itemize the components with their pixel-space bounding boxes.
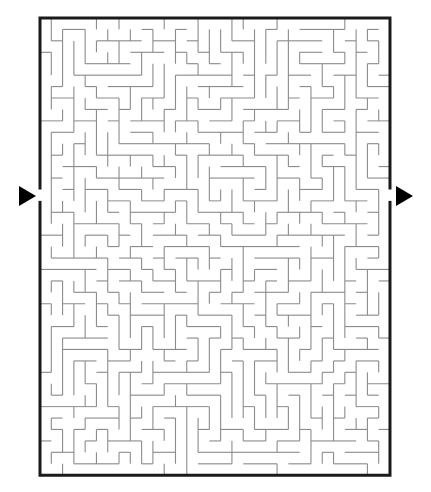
exit-arrow-icon (396, 186, 413, 206)
entrance-arrow-icon (19, 186, 36, 206)
maze-stage (0, 0, 431, 492)
maze-grid (0, 0, 431, 492)
